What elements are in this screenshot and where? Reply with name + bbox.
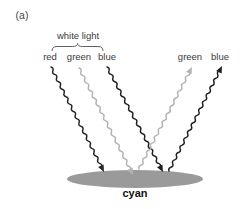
reflected-blue-label: blue: [211, 52, 229, 62]
ray-incident-green: [79, 68, 133, 175]
incident-red-label: red: [43, 52, 57, 62]
ray-incident-blue: [107, 67, 163, 172]
green-ray-squiggle: [79, 68, 131, 170]
incident-blue-label: blue: [98, 52, 116, 62]
surface-label: cyan: [122, 187, 147, 199]
surface-ellipse: [67, 170, 203, 188]
reflected-green-ray-squiggle: [139, 72, 190, 169]
blue-ray-squiggle: [107, 67, 161, 167]
ray-incident-red: [51, 67, 104, 172]
diagram-canvas: [0, 0, 247, 209]
ray-reflected-blue: [169, 66, 222, 171]
reflected-green-label: green: [178, 52, 202, 62]
white-light-label: white light: [57, 31, 99, 41]
panel-label: (a): [16, 9, 29, 21]
white-light-brace-icon: [52, 44, 103, 52]
red-ray-squiggle: [51, 67, 102, 167]
figure-absorption-reflection-diagram: (a) white light red green blue green blu…: [0, 0, 247, 209]
reflected-blue-ray-squiggle: [169, 71, 220, 171]
ray-reflected-green: [139, 67, 192, 169]
incident-green-label: green: [67, 52, 91, 62]
